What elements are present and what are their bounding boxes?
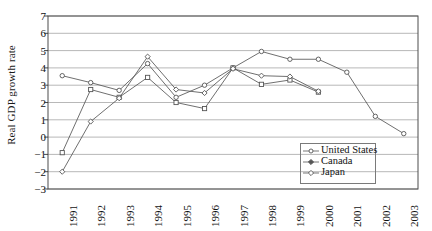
data-point-marker <box>146 75 150 79</box>
legend-marker-icon <box>303 157 319 167</box>
data-series <box>60 54 321 174</box>
series-line <box>62 68 318 153</box>
data-point-marker <box>88 80 92 84</box>
data-point-marker <box>117 88 121 92</box>
legend-label: United States <box>321 145 377 156</box>
data-point-marker <box>288 57 292 61</box>
chart-figure: Real GDP growth rate 76543210−1−2−3 1991… <box>0 0 432 231</box>
legend-label: Japan <box>321 167 345 178</box>
data-point-marker <box>60 169 65 174</box>
data-point-marker <box>89 87 93 91</box>
data-series <box>60 49 406 136</box>
legend-item: Japan <box>303 167 372 178</box>
legend-label: Canada <box>321 156 353 167</box>
series-line <box>62 51 404 133</box>
data-point-marker <box>373 114 377 118</box>
data-point-marker <box>202 106 206 110</box>
chart-legend: United StatesCanadaJapan <box>300 143 376 184</box>
data-point-marker <box>259 82 263 86</box>
data-point-marker <box>174 100 178 104</box>
data-point-marker <box>316 57 320 61</box>
data-point-marker <box>402 131 406 135</box>
data-point-marker <box>345 70 349 74</box>
legend-marker-icon <box>303 168 319 178</box>
data-series <box>60 66 320 155</box>
plot-area <box>0 0 432 231</box>
data-point-marker <box>259 49 263 53</box>
data-point-marker <box>202 83 206 87</box>
legend-marker-icon <box>303 146 319 156</box>
data-point-marker <box>145 61 149 65</box>
data-point-marker <box>259 73 264 78</box>
data-point-marker <box>60 151 64 155</box>
data-point-marker <box>60 73 64 77</box>
y-tick-marks <box>44 16 48 189</box>
data-point-marker <box>174 95 178 99</box>
